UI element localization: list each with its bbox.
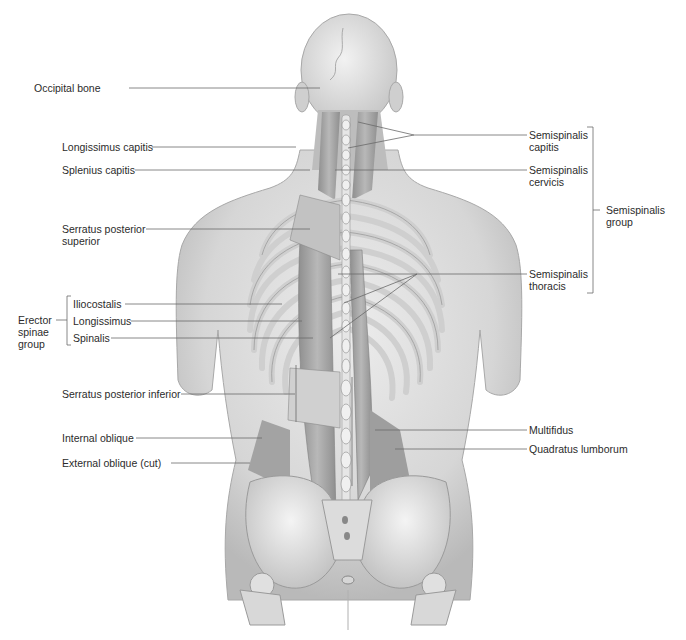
vertebral-column <box>341 115 351 535</box>
label-multifidus: Multifidus <box>529 424 573 436</box>
label-spinalis: Spinalis <box>73 332 110 344</box>
label-line-1: Serratus posterior <box>62 223 145 235</box>
label-semispinalis-group: Semispinalis group <box>606 204 665 228</box>
group-line-1: Erector <box>18 314 52 326</box>
label-quadratus-lumborum: Quadratus lumborum <box>529 443 628 455</box>
label-longissimus: Longissimus <box>73 315 131 327</box>
label-semispinalis-capitis: Semispinalis capitis <box>529 129 588 153</box>
group-line-1: Semispinalis <box>606 204 665 216</box>
label-erector-spinae-group: Erector spinae group <box>18 314 52 350</box>
group-line-2: group <box>606 216 633 228</box>
label-line-2: superior <box>62 235 100 247</box>
label-line-2: capitis <box>529 141 559 153</box>
label-line-1: Semispinalis <box>529 164 588 176</box>
label-line-2: thoracis <box>529 280 566 292</box>
label-serratus-posterior-superior: Serratus posterior superior <box>62 223 145 247</box>
label-longissimus-capitis: Longissimus capitis <box>62 141 153 153</box>
group-line-3: group <box>18 338 45 350</box>
label-semispinalis-thoracis: Semispinalis thoracis <box>529 268 588 292</box>
label-internal-oblique: Internal oblique <box>62 432 134 444</box>
label-line-1: Semispinalis <box>529 268 588 280</box>
group-line-2: spinae <box>18 326 49 338</box>
label-iliocostalis: Iliocostalis <box>73 298 121 310</box>
label-external-oblique-cut: External oblique (cut) <box>62 457 161 469</box>
label-serratus-posterior-inferior: Serratus posterior inferior <box>62 388 180 400</box>
label-occipital-bone: Occipital bone <box>34 82 101 94</box>
label-line-1: Semispinalis <box>529 129 588 141</box>
label-semispinalis-cervicis: Semispinalis cervicis <box>529 164 588 188</box>
label-line-2: cervicis <box>529 176 564 188</box>
label-splenius-capitis: Splenius capitis <box>62 164 135 176</box>
